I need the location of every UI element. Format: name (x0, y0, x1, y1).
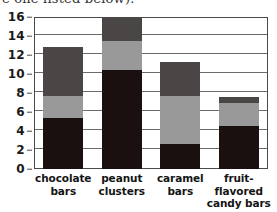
x-axis-tick-label-line: fruit-flavored (215, 172, 263, 197)
y-axis-tick-mark (27, 35, 32, 36)
x-axis-tick-label-line: caramel (157, 172, 204, 184)
bar-fruit-flavored-candy-bars (219, 97, 259, 169)
x-axis-tick-label-line: peanut (101, 172, 142, 184)
bar-segment-bottom-segment (102, 70, 142, 169)
y-axis-tick-mark (27, 16, 32, 17)
x-axis-tick-label-line: candy bars (202, 197, 277, 210)
y-axis-tick-label: 14 (8, 29, 25, 43)
bar-segment-bottom-segment (43, 118, 83, 169)
y-axis-tick-label: 8 (16, 86, 25, 100)
bar-segment-top-segment (160, 62, 200, 96)
bar-segment-middle-segment (219, 103, 259, 126)
y-axis-tick-mark (27, 54, 32, 55)
y-axis: 0246810121416 (0, 17, 32, 169)
x-axis-tick-label-line: chocolate (35, 172, 91, 184)
bar-segment-bottom-segment (219, 126, 259, 169)
bar-chocolate-bars (43, 47, 83, 169)
y-axis-tick-mark (27, 168, 32, 169)
bar-segment-middle-segment (160, 96, 200, 144)
bar-segment-top-segment (102, 17, 142, 41)
x-axis-tick-label: fruit-flavoredcandy bars (202, 172, 277, 210)
bar-peanut-clusters (102, 17, 142, 169)
y-axis-tick-mark (27, 92, 32, 93)
bar-segment-top-segment (43, 47, 83, 95)
bar-caramel-bars (160, 62, 200, 169)
y-axis-tick-label: 0 (16, 162, 25, 176)
stacked-bar-chart: 0246810121416 chocolatebarspeanutcluster… (0, 9, 276, 212)
bar-segment-middle-segment (43, 96, 83, 118)
bar-segment-middle-segment (102, 41, 142, 70)
y-axis-tick-mark (27, 73, 32, 74)
bar-segment-top-segment (219, 97, 259, 104)
bar-segment-bottom-segment (160, 144, 200, 169)
y-axis-tick-mark (27, 149, 32, 150)
y-axis-tick-label: 6 (16, 105, 25, 119)
clipped-heading-text: e one listed below). (2, 0, 135, 6)
y-axis-tick-mark (27, 130, 32, 131)
y-axis-tick-label: 12 (8, 48, 25, 62)
y-axis-tick-label: 4 (16, 124, 25, 138)
y-axis-tick-label: 16 (8, 10, 25, 24)
y-axis-tick-label: 10 (8, 67, 25, 81)
y-axis-tick-mark (27, 111, 32, 112)
y-axis-tick-label: 2 (16, 143, 25, 157)
bars-layer (34, 17, 268, 169)
